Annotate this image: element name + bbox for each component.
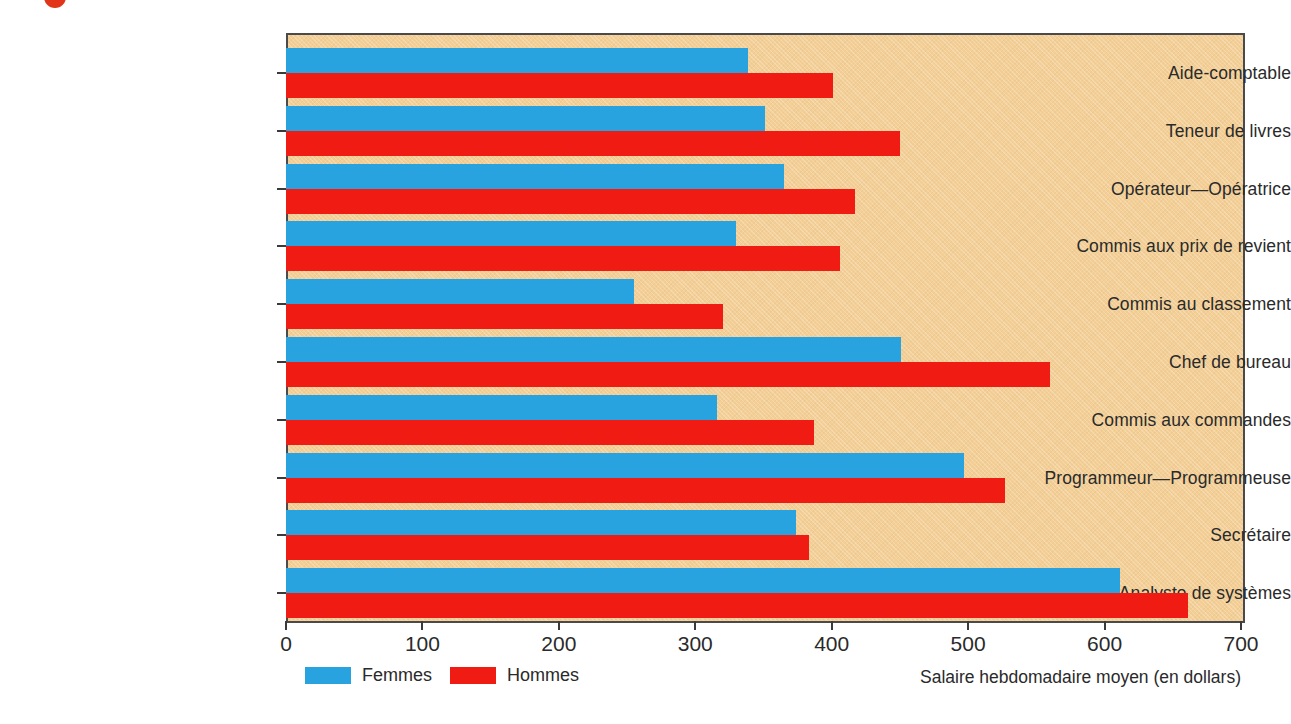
category-label: Chef de bureau [1015,352,1291,372]
x-tick [1104,621,1106,630]
x-tick-label: 100 [405,632,440,656]
category-label: Commis aux prix de revient [1015,236,1291,256]
x-tick [558,621,560,630]
x-tick [421,621,423,630]
chart-figure: Aide-comptableTeneur de livresOpérateur—… [0,0,1291,724]
bar-femmes [286,164,784,189]
category-label: Opérateur—Opératrice [1015,179,1291,199]
x-tick-label: 400 [814,632,849,656]
bar-femmes [286,48,748,73]
legend-item: Hommes [450,665,579,686]
bar-femmes [286,568,1120,593]
bar-femmes [286,395,717,420]
bar-femmes [286,279,634,304]
bar-hommes [286,420,814,445]
category-label: Teneur de livres [1015,121,1291,141]
bar-hommes [286,362,1050,387]
bar-hommes [286,478,1005,503]
bar-hommes [286,304,723,329]
bar-femmes [286,510,796,535]
x-tick [967,621,969,630]
chart-legend: FemmesHommes [305,665,579,686]
legend-label: Femmes [362,665,432,686]
bar-hommes [286,131,900,156]
category-label: Secrétaire [1015,525,1291,545]
x-axis-title: Salaire hebdomadaire moyen (en dollars) [920,667,1241,688]
bar-hommes [286,246,840,271]
x-tick-label: 0 [280,632,292,656]
bar-hommes [286,535,809,560]
x-tick-label: 700 [1223,632,1258,656]
x-tick-label: 300 [678,632,713,656]
bar-hommes [286,73,833,98]
x-tick-label: 500 [951,632,986,656]
category-label: Commis au classement [1015,294,1291,314]
bar-femmes [286,453,964,478]
x-tick [831,621,833,630]
category-label: Aide-comptable [1015,63,1291,83]
legend-label: Hommes [507,665,579,686]
bar-hommes [286,593,1188,618]
x-tick [285,621,287,630]
title-fragment-glyph [44,0,66,8]
bar-femmes [286,337,901,362]
category-label: Commis aux commandes [1015,410,1291,430]
x-tick-label: 200 [541,632,576,656]
bar-femmes [286,221,736,246]
bar-hommes [286,189,855,214]
x-tick-label: 600 [1087,632,1122,656]
legend-swatch-femmes [305,667,351,684]
category-label: Programmeur—Programmeuse [1015,468,1291,488]
x-tick [694,621,696,630]
legend-item: Femmes [305,665,432,686]
x-tick [1240,621,1242,630]
bar-femmes [286,106,765,131]
legend-swatch-hommes [450,667,496,684]
